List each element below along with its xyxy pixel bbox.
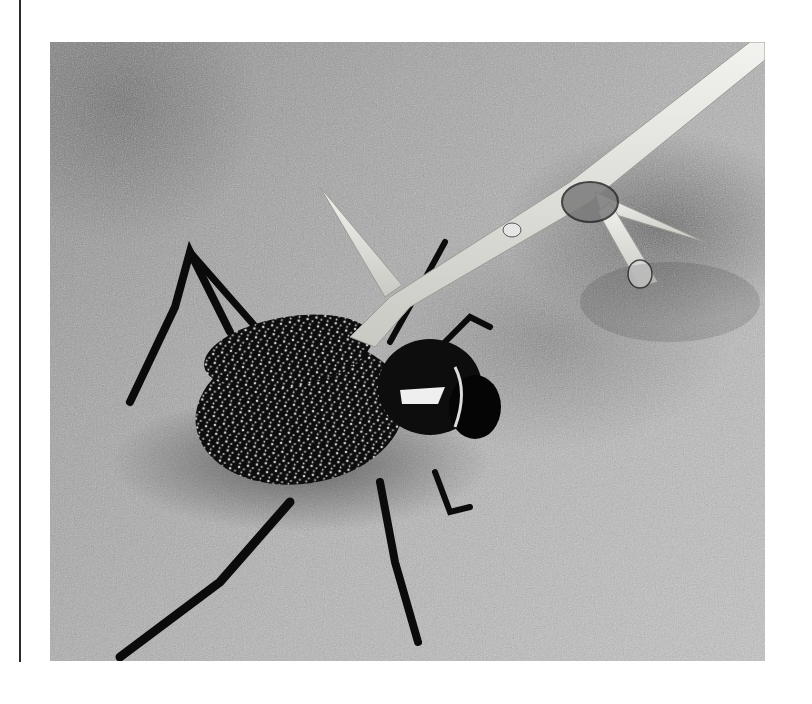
beetle-photo [50, 42, 765, 661]
page-margin-rule [19, 0, 21, 662]
beetle-photo-illustration [50, 42, 765, 661]
beetle-head [449, 375, 501, 439]
sand-shadow-patch [580, 262, 760, 342]
